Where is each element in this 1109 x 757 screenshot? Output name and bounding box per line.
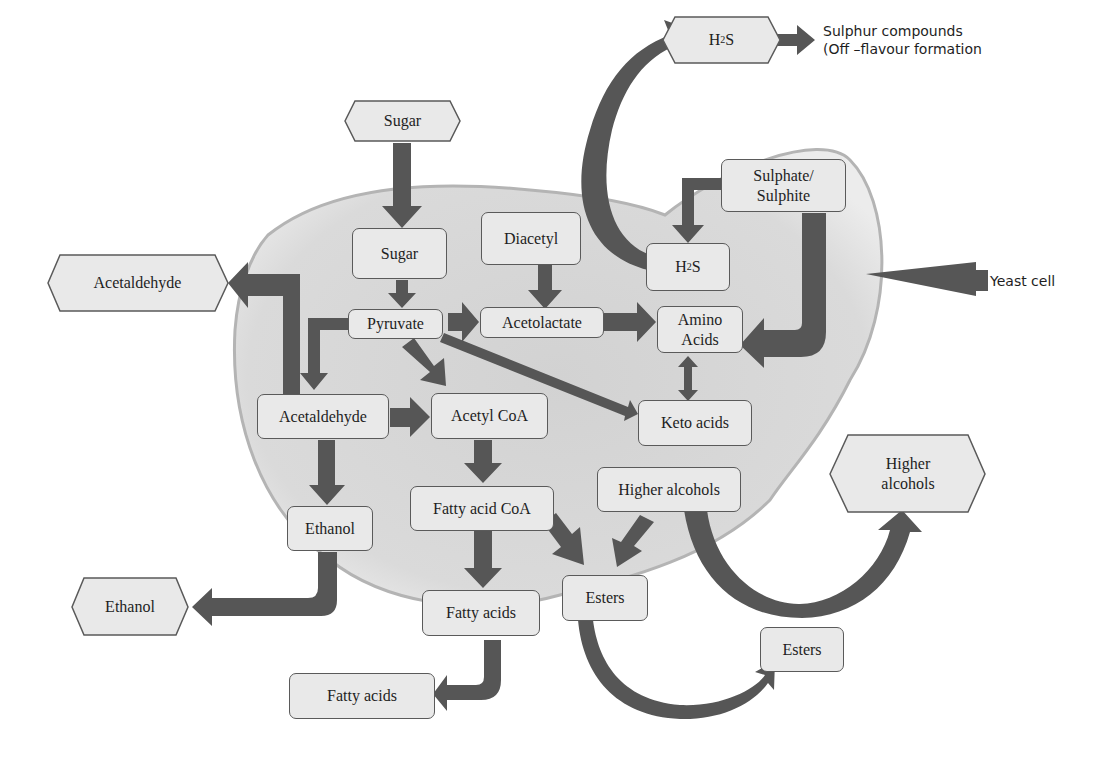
diagram-canvas: [0, 0, 1109, 757]
h2s-s: S: [692, 257, 701, 277]
node-esters: Esters: [562, 575, 648, 621]
node-acetaldehyde: Acetaldehyde: [257, 394, 389, 439]
annotation-yeast-cell: Yeast cell: [990, 272, 1055, 290]
arrow-fattyacids-out: [433, 640, 501, 711]
node-ethanol: Ethanol: [287, 506, 373, 551]
node-higheralcohols-external: Higher alcohols: [862, 435, 954, 512]
node-fatty-acid-coa: Fatty acid CoA: [410, 486, 554, 531]
node-fatty-acids-external: Fatty acids: [289, 673, 435, 719]
metabolism-diagram: Sugar H2S Acetaldehyde Ethanol Higher al…: [0, 0, 1109, 757]
node-esters-external: Esters: [760, 627, 844, 672]
h2s-ext-s: S: [725, 30, 734, 50]
node-acetyl-coa: Acetyl CoA: [431, 393, 548, 439]
node-diacetyl: Diacetyl: [481, 212, 581, 265]
node-amino-acids: Amino Acids: [657, 306, 743, 353]
node-ethanol-external: Ethanol: [84, 578, 176, 635]
h2s-ext-h: H: [709, 30, 721, 50]
node-sugar-external: Sugar: [355, 101, 450, 141]
node-fatty-acids: Fatty acids: [422, 590, 540, 636]
node-acetolactate: Acetolactate: [480, 307, 604, 338]
node-h2s: H2S: [646, 243, 730, 291]
annotation-sulphur-line2: (Off –flavour formation: [823, 40, 982, 58]
arrow-ethanol-out: [192, 552, 337, 626]
node-acetaldehyde-external: Acetaldehyde: [60, 255, 215, 311]
arrow-esters-out: [578, 620, 775, 719]
node-pyruvate: Pyruvate: [348, 309, 443, 339]
node-sulphate-sulphite: Sulphate/ Sulphite: [721, 159, 846, 212]
node-keto-acids: Keto acids: [638, 400, 752, 446]
node-higher-alcohols: Higher alcohols: [597, 467, 741, 512]
node-h2s-external: H2S: [675, 17, 768, 63]
h2s-h: H: [675, 257, 687, 277]
node-sugar: Sugar: [352, 228, 447, 279]
annotation-sulphur-line1: Sulphur compounds: [823, 22, 982, 40]
annotation-sulphur-compounds: Sulphur compounds (Off –flavour formatio…: [823, 22, 982, 58]
arrow-yeast-cell-pointer: [866, 262, 988, 296]
